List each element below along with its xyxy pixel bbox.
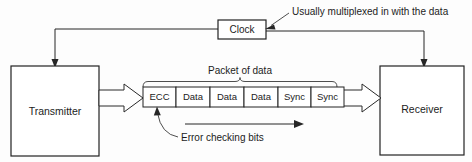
packet-cells-group: ECC Data Data Data Sync (143, 87, 344, 107)
ecc-note-leader-line (158, 113, 179, 137)
ecc-note-label: Error checking bits (181, 132, 264, 143)
packet-cell-label: Data (183, 91, 204, 102)
clock-note-leader (265, 13, 289, 30)
packet-brace (143, 78, 337, 88)
packet-brace-path (143, 78, 337, 88)
packet-cell[interactable]: Data (210, 87, 244, 107)
packet-cell-label: Sync (317, 91, 338, 102)
clock-note-label: Usually multiplexed in with the data (292, 6, 449, 17)
clock-note-leader-line (271, 13, 289, 26)
clock-label: Clock (229, 24, 255, 35)
packet-caption-label: Packet of data (208, 65, 272, 76)
diagram-canvas: Clock Usually multiplexed in with the da… (0, 0, 472, 162)
transmitter-output-arrow (99, 84, 143, 112)
flow-direction-arrowhead (294, 120, 304, 128)
flow-direction-arrow (185, 120, 304, 128)
packet-cell[interactable]: Data (244, 87, 278, 107)
packet-cell[interactable]: ECC (143, 87, 176, 107)
ecc-note-leader (154, 107, 178, 138)
packet-cell[interactable]: Sync (311, 87, 344, 107)
clock-to-receiver-line (266, 31, 424, 62)
packet-cell[interactable]: Data (176, 87, 210, 107)
clock-to-transmitter-line (55, 29, 218, 62)
packet-cell[interactable]: Sync (278, 87, 311, 107)
packet-cell-label: Data (251, 91, 272, 102)
ecc-note-arrowhead (154, 107, 161, 116)
packet-cell-label: Data (217, 91, 238, 102)
receiver-block[interactable]: Receiver (380, 66, 464, 155)
transmitter-label: Transmitter (29, 105, 82, 117)
transmitter-output-arrow-shape (99, 84, 143, 112)
clock-block[interactable]: Clock (218, 20, 266, 39)
transmitter-block[interactable]: Transmitter (11, 66, 99, 156)
packet-cell-label: ECC (149, 91, 169, 102)
packet-cell-label: Sync (284, 91, 305, 102)
diagram-svg: Clock Usually multiplexed in with the da… (0, 0, 472, 162)
receiver-label: Receiver (401, 103, 443, 115)
